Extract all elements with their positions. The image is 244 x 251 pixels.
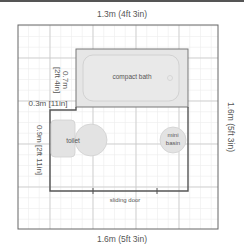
dimension-left-upper-line2: [2ft 4in] xyxy=(53,67,62,93)
compact-bath[interactable]: compact bath xyxy=(76,49,188,107)
dimension-top-width: 1.3m (4ft 3in) xyxy=(97,9,147,19)
toilet[interactable]: toilet xyxy=(51,120,107,157)
dimension-bottom-width: 1.6m (5ft 3in) xyxy=(97,234,147,244)
basin-label-line1: mini xyxy=(167,132,178,138)
dimension-left-lower-height: 0.9m [2ft 11in] xyxy=(35,125,44,175)
dimension-left-step: 0.3m [11in] xyxy=(29,99,68,108)
bath-label: compact bath xyxy=(112,73,151,81)
floor-plan: compact bath sliding door toilet mini ba… xyxy=(0,0,244,251)
dimension-right-height: 1.6m (5ft 3in) xyxy=(226,102,236,152)
mini-basin[interactable]: mini basin xyxy=(160,127,186,153)
basin-label-line2: basin xyxy=(166,140,180,146)
toilet-label: toilet xyxy=(66,137,80,144)
sliding-door-label: sliding door xyxy=(110,197,141,203)
